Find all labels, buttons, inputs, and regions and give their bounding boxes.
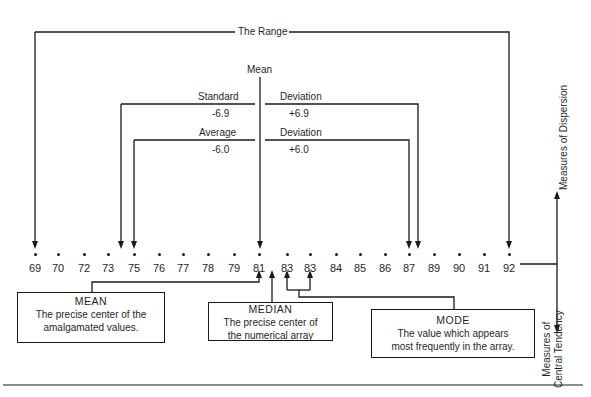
point-dot <box>508 253 511 256</box>
standard-deviation-label: Deviation <box>280 91 322 102</box>
value-item: 89 <box>422 262 446 274</box>
value-item: 79 <box>222 262 246 274</box>
point-dot <box>309 253 312 256</box>
central-tendency-line1: Measures of <box>541 310 553 388</box>
value-item: 72 <box>72 262 96 274</box>
point-dot <box>182 253 185 256</box>
mean-box-title: MEAN <box>18 295 164 308</box>
mode-box-line1: The value which appears <box>372 327 534 340</box>
mode-box: MODE The value which appears most freque… <box>371 309 535 358</box>
value-item: 84 <box>324 262 348 274</box>
average-deviation-label: Deviation <box>280 127 322 138</box>
value-item: 83 <box>298 262 322 274</box>
value-item: 91 <box>472 262 496 274</box>
point-dot <box>433 253 436 256</box>
median-box: MEDIAN The precise center of the numeric… <box>208 302 333 341</box>
value-item: 81 <box>247 262 271 274</box>
mean-box-line1: The precise center of the <box>18 308 164 321</box>
value-item: 76 <box>147 262 171 274</box>
value-item: 92 <box>497 262 521 274</box>
avg-dev-plus-value: +6.0 <box>289 144 309 155</box>
point-dot <box>233 253 236 256</box>
average-label: Average <box>199 127 236 138</box>
mean-box: MEAN The precise center of the amalgamat… <box>17 292 165 343</box>
value-item: 78 <box>196 262 220 274</box>
standard-label: Standard <box>198 91 239 102</box>
median-box-line1: The precise center of <box>209 316 332 329</box>
point-dot <box>258 253 261 256</box>
point-dot <box>335 253 338 256</box>
std-dev-minus-value: -6.9 <box>212 108 229 119</box>
point-dot <box>384 253 387 256</box>
value-item: 86 <box>373 262 397 274</box>
value-item: 83 <box>275 262 299 274</box>
point-dot <box>359 253 362 256</box>
central-tendency-line2: Central Tendency <box>553 310 565 388</box>
value-item: 87 <box>397 262 421 274</box>
point-dot <box>286 253 289 256</box>
point-dot <box>133 253 136 256</box>
median-box-title: MEDIAN <box>209 303 332 316</box>
value-item: 69 <box>23 262 47 274</box>
point-dot <box>158 253 161 256</box>
range-label: The Range <box>238 26 287 37</box>
mean-box-line2: amalgamated values. <box>18 321 164 334</box>
median-box-line2: the numerical array <box>209 329 332 342</box>
std-dev-plus-value: +6.9 <box>289 108 309 119</box>
mean-label: Mean <box>247 64 272 75</box>
mode-box-line2: most frequently in the array. <box>372 340 534 353</box>
dispersion-axis-label: Measures of Dispersion <box>558 85 569 190</box>
point-dot <box>57 253 60 256</box>
value-item: 73 <box>96 262 120 274</box>
value-item: 77 <box>171 262 195 274</box>
point-dot <box>483 253 486 256</box>
value-item: 70 <box>46 262 70 274</box>
point-dot <box>107 253 110 256</box>
mode-box-title: MODE <box>372 314 534 327</box>
point-dot <box>34 253 37 256</box>
value-item: 85 <box>348 262 372 274</box>
point-dot <box>207 253 210 256</box>
central-tendency-axis-label: Measures of Central Tendency <box>541 310 565 388</box>
value-item: 75 <box>122 262 146 274</box>
value-item: 90 <box>447 262 471 274</box>
point-dot <box>458 253 461 256</box>
point-dot <box>83 253 86 256</box>
point-dot <box>408 253 411 256</box>
avg-dev-minus-value: -6.0 <box>212 144 229 155</box>
